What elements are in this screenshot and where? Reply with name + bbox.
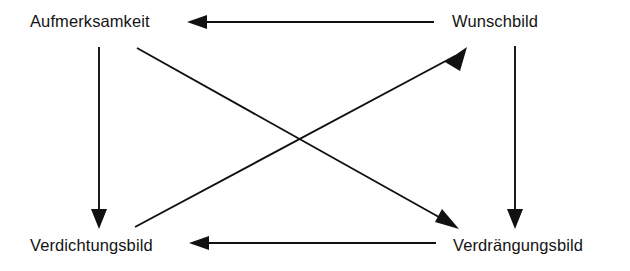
edge-wunschbild-to-verdraengungsbild xyxy=(507,46,523,229)
diagram-arrows xyxy=(0,0,630,271)
node-label-aufmerksamkeit: Aufmerksamkeit xyxy=(30,13,150,30)
node-label-verdraengungsbild: Verdrängungsbild xyxy=(453,237,583,254)
edge-aufmerksamkeit-to-verdichtungsbild xyxy=(91,47,107,229)
diagram-canvas: Aufmerksamkeit Wunschbild Verdichtungsbi… xyxy=(0,0,630,271)
edge-wunschbild-to-aufmerksamkeit xyxy=(187,15,434,29)
node-label-verdichtungsbild: Verdichtungsbild xyxy=(30,237,153,254)
edge-aufmerksamkeit-to-verdraengungsbild xyxy=(137,48,459,229)
edge-verdraengungsbild-to-verdichtungsbild xyxy=(189,236,436,250)
node-label-wunschbild: Wunschbild xyxy=(452,13,538,30)
